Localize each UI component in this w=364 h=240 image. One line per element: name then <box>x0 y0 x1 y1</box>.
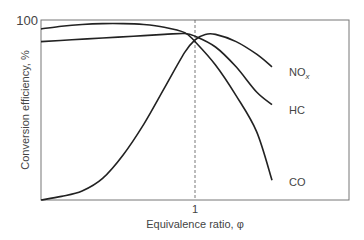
label-nox: NOx <box>289 66 311 81</box>
curve-nox <box>41 34 272 200</box>
curve-hc <box>41 33 272 104</box>
conversion-efficiency-chart: 100 1 Equivalence ratio, φ Conversion ef… <box>0 0 364 240</box>
x-tick-1: 1 <box>192 203 198 215</box>
y-axis-title: Conversion efficiency, % <box>19 50 31 170</box>
y-tick-100: 100 <box>16 13 38 28</box>
label-co: CO <box>289 176 306 188</box>
x-axis-title: Equivalence ratio, φ <box>146 218 244 230</box>
label-hc: HC <box>289 104 305 116</box>
